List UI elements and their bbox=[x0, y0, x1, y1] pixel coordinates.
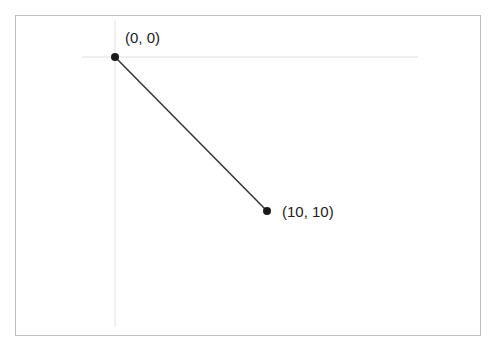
point-end bbox=[263, 207, 271, 215]
point-origin-label: (0, 0) bbox=[125, 29, 160, 46]
point-origin bbox=[111, 53, 119, 61]
point-end-label: (10, 10) bbox=[282, 203, 334, 220]
diagram-canvas bbox=[0, 0, 497, 346]
segment-line bbox=[115, 57, 267, 211]
